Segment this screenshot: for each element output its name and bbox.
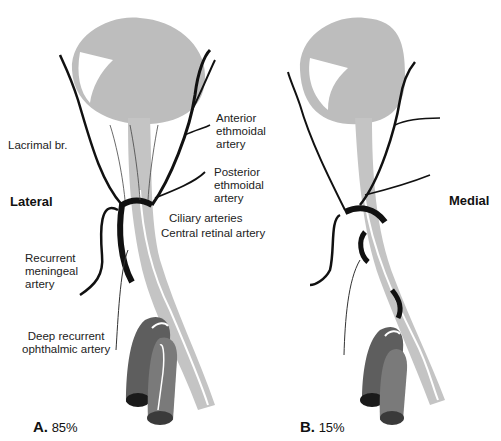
side-label-medial: Medial xyxy=(449,193,489,208)
panel-caption-a: A. 85% xyxy=(33,418,78,435)
label-deep-recurrent-ophthalmic-artery: Deep recurrent ophthalmic artery xyxy=(22,330,110,356)
ophthalmic-artery-illustration xyxy=(0,0,501,441)
side-label-lateral: Lateral xyxy=(10,194,53,209)
panel-letter-b: B. xyxy=(300,418,315,435)
panel-b-drawing xyxy=(288,18,445,425)
panel-letter-a: A. xyxy=(33,418,48,435)
label-recurrent-meningeal-artery: Recurrent meningeal artery xyxy=(25,252,78,291)
label-lacrimal-branch: Lacrimal br. xyxy=(8,139,67,152)
panel-percent-a: 85% xyxy=(52,420,78,435)
label-posterior-ethmoidal-artery: Posterior ethmoidal artery xyxy=(214,166,264,205)
label-anterior-ethmoidal-artery: Anterior ethmoidal artery xyxy=(216,112,266,151)
panel-caption-b: B. 15% xyxy=(300,418,345,435)
label-ciliary-arteries: Ciliary arteries xyxy=(169,212,243,225)
label-central-retinal-artery: Central retinal artery xyxy=(161,227,265,240)
panel-percent-b: 15% xyxy=(319,420,345,435)
